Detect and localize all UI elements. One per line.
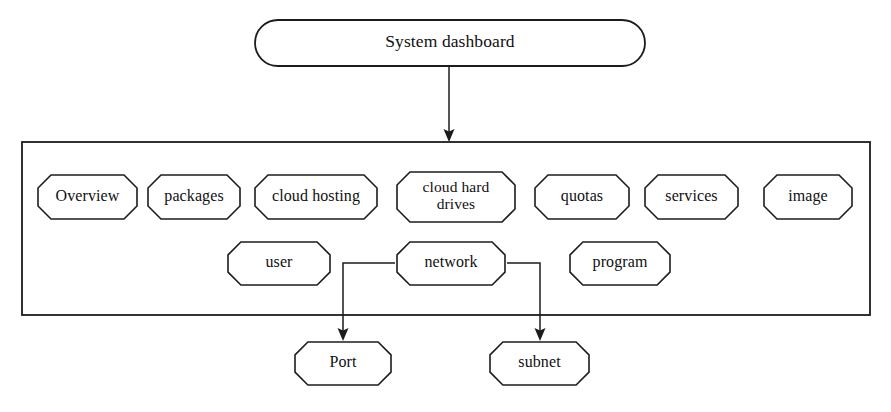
node-overview[interactable]: Overview <box>38 175 137 219</box>
node-label-packages: packages <box>164 187 223 205</box>
node-packages[interactable]: packages <box>148 175 240 219</box>
node-label-image: image <box>788 187 828 205</box>
node-label-cloud-hosting: cloud hosting <box>272 187 360 205</box>
node-port[interactable]: Port <box>295 342 391 385</box>
node-quotas[interactable]: quotas <box>535 175 629 219</box>
diagram-root: System dashboardOverviewpackagescloud ho… <box>0 0 891 412</box>
node-system-dashboard[interactable]: System dashboard <box>255 20 645 66</box>
node-services[interactable]: services <box>645 175 738 219</box>
node-subnet[interactable]: subnet <box>490 342 589 385</box>
node-cloud-hard-drives[interactable]: cloud harddrives <box>397 172 515 222</box>
node-user[interactable]: user <box>228 242 330 285</box>
container-layer <box>22 142 870 315</box>
dashboard-modules-container <box>22 142 870 315</box>
nodes-layer: System dashboardOverviewpackagescloud ho… <box>38 20 852 385</box>
connector-network-to-subnet <box>507 263 546 341</box>
node-label-program: program <box>593 253 648 271</box>
node-label-user: user <box>265 253 293 270</box>
connector-network-to-port <box>338 263 396 341</box>
node-label-network: network <box>424 253 477 270</box>
node-label-system-dashboard: System dashboard <box>385 31 515 51</box>
node-label-port: Port <box>329 353 357 370</box>
node-label-subnet: subnet <box>518 353 561 370</box>
node-label-cloud-hard-drives: drives <box>437 195 475 212</box>
node-label-overview: Overview <box>56 187 120 204</box>
node-cloud-hosting[interactable]: cloud hosting <box>255 175 377 219</box>
node-label-cloud-hard-drives: cloud hard <box>423 178 490 195</box>
system-dashboard-diagram: System dashboardOverviewpackagescloud ho… <box>0 0 891 412</box>
node-image[interactable]: image <box>764 175 852 219</box>
connector-dashboard-to-container <box>444 66 455 142</box>
node-label-services: services <box>665 187 717 204</box>
node-network[interactable]: network <box>397 242 505 285</box>
node-label-quotas: quotas <box>561 187 603 205</box>
node-program[interactable]: program <box>570 242 670 285</box>
